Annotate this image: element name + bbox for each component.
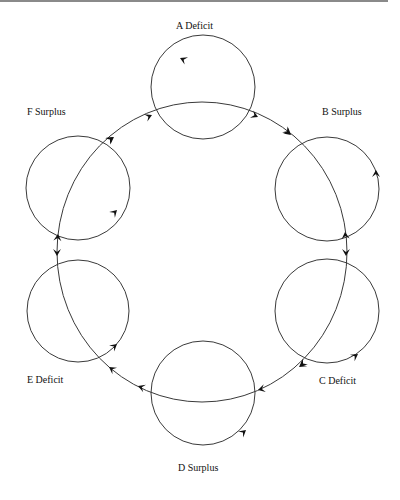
label-a: A Deficit [176,20,213,31]
circle-e [27,260,129,362]
circle-b [275,137,379,241]
arrow-icon [372,170,380,177]
circle-c [275,259,379,363]
arrow-icon [238,427,249,438]
arrow-icon [178,54,188,64]
arrow-icon [137,382,146,392]
arrow-icon [257,384,266,394]
label-b: B Surplus [322,106,362,117]
label-c: C Deficit [319,375,356,386]
circle-d [151,341,255,445]
label-f: F Surplus [27,106,66,117]
circle-a [151,35,255,139]
flow-diagram [0,0,400,500]
label-e: E Deficit [27,374,63,385]
label-d: D Surplus [178,462,218,473]
circle-f [26,136,130,240]
arrow-icon [342,249,350,256]
arrow-icon [109,207,120,218]
